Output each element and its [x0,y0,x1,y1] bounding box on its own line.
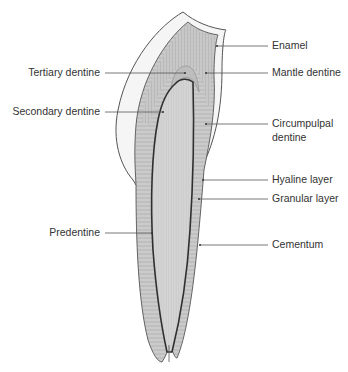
label-circumpulpal-dentine-line2: dentine [272,131,306,144]
label-enamel: Enamel [272,39,308,52]
tooth-diagram [0,0,348,372]
label-secondary-dentine: Secondary dentine [0,105,100,118]
label-cementum: Cementum [272,238,323,251]
label-predentine: Predentine [0,226,100,239]
label-mantle-dentine: Mantle dentine [272,66,341,79]
label-hyaline-layer: Hyaline layer [272,173,333,186]
label-circumpulpal-dentine-line1: Circumpulpal [272,117,333,130]
label-granular-layer: Granular layer [272,192,339,205]
label-tertiary-dentine: Tertiary dentine [0,66,100,79]
